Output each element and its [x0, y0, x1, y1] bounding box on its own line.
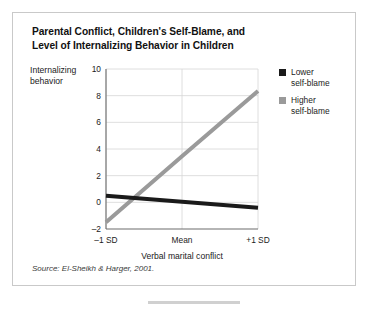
- legend-label: Higher self-blame: [291, 95, 330, 116]
- legend-label-line-2: self-blame: [291, 78, 330, 89]
- legend-item-higher-self-blame: Higher self-blame: [279, 95, 353, 116]
- figure-container: Parental Conflict, Children's Self-Blame…: [12, 12, 356, 286]
- legend-label-line-1: Lower: [291, 67, 330, 78]
- legend-label-line-2: self-blame: [291, 106, 330, 117]
- bottom-divider-bar: [148, 301, 240, 304]
- plot-area: Internalizing behavior 10 8 6 4 2 0 –2 –…: [13, 13, 357, 287]
- chart-legend: Lower self-blame Higher self-blame: [279, 67, 353, 123]
- legend-label-line-1: Higher: [291, 95, 330, 106]
- source-note: Source: El-Sheikh & Harger, 2001.: [32, 264, 154, 273]
- legend-label: Lower self-blame: [291, 67, 330, 88]
- legend-item-lower-self-blame: Lower self-blame: [279, 67, 353, 88]
- square-swatch-icon: [279, 69, 286, 76]
- square-swatch-icon: [279, 97, 286, 104]
- chart-plot-svg: [13, 13, 357, 287]
